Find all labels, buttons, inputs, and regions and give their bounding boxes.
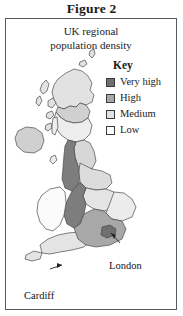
map-label-london: London xyxy=(109,260,142,272)
key-item-very-high: Very high xyxy=(106,74,176,90)
caption-line-1: UK regional xyxy=(6,25,176,39)
island-isle-of-man xyxy=(50,155,57,164)
map-key: Key Very high High Medium Low xyxy=(106,59,176,138)
key-title: Key xyxy=(113,59,176,72)
key-swatch-medium xyxy=(106,110,115,119)
island-orkney xyxy=(79,60,87,67)
island-islay xyxy=(45,123,52,131)
key-label-high: High xyxy=(120,92,141,104)
region-wales xyxy=(37,187,66,231)
region-northern-ireland xyxy=(15,127,44,153)
key-item-medium: Medium xyxy=(106,106,176,122)
figure-frame: UK regional population density xyxy=(5,18,177,310)
key-item-low: Low xyxy=(106,122,176,138)
region-cornwall-tip xyxy=(25,251,42,261)
region-northern-scotland xyxy=(52,69,94,109)
key-label-low: Low xyxy=(120,124,139,136)
figure-container: Figure 2 UK regional population density xyxy=(0,0,183,316)
key-label-medium: Medium xyxy=(120,108,156,120)
key-label-very-high: Very high xyxy=(120,76,161,88)
region-kintyre xyxy=(52,117,58,135)
island-shetland xyxy=(89,49,95,58)
key-item-high: High xyxy=(106,90,176,106)
key-swatch-low xyxy=(106,126,115,135)
island-uist xyxy=(36,96,42,106)
key-swatch-very-high xyxy=(106,78,115,87)
map-label-cardiff: Cardiff xyxy=(24,290,54,302)
figure-title: Figure 2 xyxy=(0,0,183,17)
island-lewis-harris xyxy=(40,80,49,94)
key-swatch-high xyxy=(106,94,115,103)
